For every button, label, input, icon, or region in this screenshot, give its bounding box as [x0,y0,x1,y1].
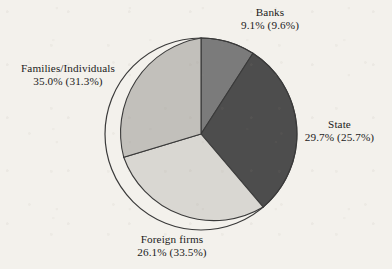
pie-label-families-individuals: Families/Individuals 35.0% (31.3%) [2,62,134,88]
pie-label-banks: Banks 9.1% (9.6%) [215,6,325,32]
pie-chart-figure: Banks 9.1% (9.6%) State 29.7% (25.7%) Fo… [0,0,392,269]
pie-label-families-individuals-name: Families/Individuals [2,62,134,75]
pie-label-state: State 29.7% (25.7%) [287,118,392,144]
pie-label-banks-name: Banks [215,6,325,19]
pie-label-foreign-firms-value: 26.1% (33.5%) [112,246,232,259]
pie-label-foreign-firms: Foreign firms 26.1% (33.5%) [112,233,232,259]
pie-label-state-name: State [287,118,392,131]
pie-label-state-value: 29.7% (25.7%) [287,131,392,144]
pie-label-families-individuals-value: 35.0% (31.3%) [2,75,134,88]
pie-label-foreign-firms-name: Foreign firms [112,233,232,246]
pie-label-banks-value: 9.1% (9.6%) [215,19,325,32]
